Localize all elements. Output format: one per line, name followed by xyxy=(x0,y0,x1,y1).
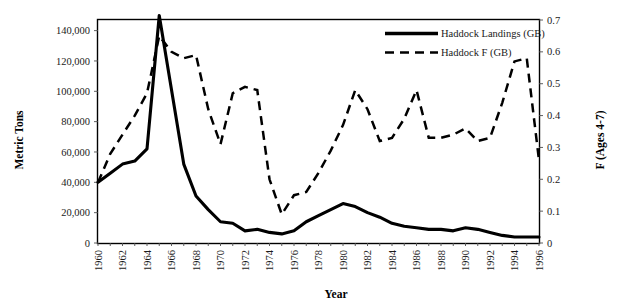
x-tick-label: 1966 xyxy=(166,250,177,271)
chart-figure: 020,00040,00060,00080,000100,000120,0001… xyxy=(0,0,626,307)
y-tick-label: 120,000 xyxy=(56,56,90,67)
y2-tick-label: 0.4 xyxy=(547,110,561,121)
chart-legend: Haddock Landings (GB) Haddock F (GB) xyxy=(385,28,545,59)
y-tick-label: 140,000 xyxy=(56,25,90,36)
x-tick-label: 1986 xyxy=(411,250,422,271)
x-tick-label: 1962 xyxy=(117,250,128,271)
y2-tick-label: 0.6 xyxy=(547,46,560,57)
y-axis-left-ticks: 020,00040,00060,00080,000100,000120,0001… xyxy=(56,25,98,248)
x-tick-label: 1976 xyxy=(289,250,300,271)
x-tick-label: 1968 xyxy=(191,250,202,271)
x-tick-label: 1982 xyxy=(362,250,373,271)
x-tick-label: 1996 xyxy=(534,250,545,271)
x-axis-ticks: 1960196219641966196819701972197419761978… xyxy=(93,249,545,271)
y-tick-label: 80,000 xyxy=(61,116,90,127)
y-axis-right-ticks: 00.10.20.30.40.50.60.7 xyxy=(539,15,561,249)
legend-label-f: Haddock F (GB) xyxy=(441,47,512,59)
y2-tick-label: 0 xyxy=(547,238,552,249)
y2-tick-label: 0.3 xyxy=(547,142,560,153)
x-tick-label: 1972 xyxy=(240,250,251,271)
x-tick-label: 1970 xyxy=(215,250,226,271)
haddock-landings-and-f-chart: 020,00040,00060,00080,000100,000120,0001… xyxy=(0,0,626,307)
y-axis-right-title: F (Ages 4-7) xyxy=(594,110,607,169)
y2-tick-label: 0.1 xyxy=(547,206,560,217)
y-axis-left-title: Metric Tons xyxy=(13,110,25,170)
x-tick-label: 1988 xyxy=(436,250,447,271)
x-tick-label: 1990 xyxy=(460,250,471,271)
y-tick-label: 60,000 xyxy=(61,147,90,158)
x-tick-label: 1992 xyxy=(485,250,496,271)
x-tick-label: 1984 xyxy=(387,249,398,271)
x-tick-label: 1994 xyxy=(509,249,520,271)
y2-tick-label: 0.2 xyxy=(547,174,560,185)
x-tick-label: 1964 xyxy=(142,249,153,271)
y-tick-label: 100,000 xyxy=(56,86,90,97)
x-tick-label: 1978 xyxy=(313,250,324,271)
series-haddock-f-line xyxy=(98,36,539,214)
x-tick-label: 1974 xyxy=(264,249,275,271)
y-tick-label: 20,000 xyxy=(61,207,90,218)
legend-label-landings: Haddock Landings (GB) xyxy=(441,28,545,40)
y-tick-label: 0 xyxy=(85,238,90,249)
x-tick-label: 1960 xyxy=(93,250,104,271)
x-axis-title: Year xyxy=(325,288,348,300)
y2-tick-label: 0.7 xyxy=(547,15,560,26)
y-tick-label: 40,000 xyxy=(61,177,90,188)
x-tick-label: 1980 xyxy=(338,250,349,271)
y2-tick-label: 0.5 xyxy=(547,78,560,89)
